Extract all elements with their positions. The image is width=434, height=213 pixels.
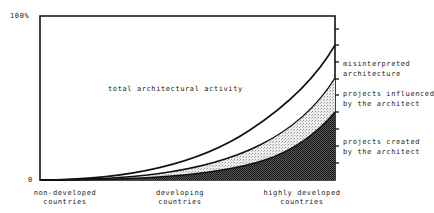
legend-created-line2: by the architect: [343, 147, 420, 157]
x-label-highly-developed-line2: countries: [262, 197, 342, 207]
x-label-developing-line2: countries: [145, 197, 215, 207]
x-label-non-developed-line2: countries: [30, 197, 100, 207]
annotation-total-activity: total architectural activity: [108, 84, 243, 94]
y-axis-top-label: 100%: [10, 11, 29, 21]
legend-misinterpreted-line1: misinterpreted: [343, 59, 410, 69]
legend-created-line1: projects created: [343, 137, 420, 147]
y-axis-zero-label: 0: [28, 175, 33, 185]
legend-influenced-line1: projects influenced: [343, 89, 434, 99]
legend-misinterpreted-line2: architecture: [343, 69, 401, 79]
legend-influenced-line2: by the architect: [343, 99, 420, 109]
